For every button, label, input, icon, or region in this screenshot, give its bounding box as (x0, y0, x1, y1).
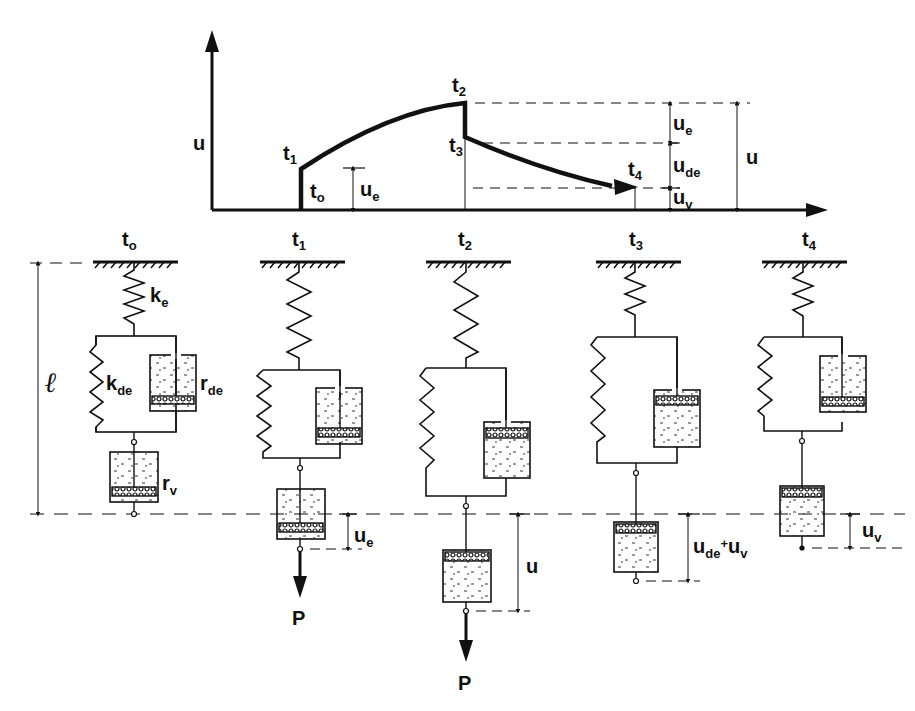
svg-text:t3: t3 (629, 228, 643, 253)
svg-text:uv: uv (862, 519, 882, 545)
svg-text:rv: rv (162, 472, 178, 498)
t3-graph-label: t3 (449, 134, 463, 159)
spring-ke (124, 262, 144, 336)
y-axis-arrow-icon (205, 30, 219, 52)
force-arrow-icon (293, 576, 307, 598)
ue-label: ue (360, 178, 379, 204)
u-total-label: u (746, 146, 758, 168)
length-label: ℓ (44, 367, 57, 398)
model-t2: t2 P u (420, 228, 538, 694)
x-axis-arrow-icon (806, 203, 828, 217)
model-t4: t4 uv (758, 228, 905, 551)
ude-right-label: ude (673, 154, 700, 180)
force-arrow-icon (459, 640, 473, 662)
svg-text:t2: t2 (458, 228, 472, 253)
model-t0: to ke kde rde rv (90, 228, 223, 517)
svg-text:ude+uv: ude+uv (693, 535, 748, 561)
svg-text:rde: rde (200, 372, 223, 398)
displacement-time-graph: u ue t1 to t2 t3 t4 ue ude uv u (193, 30, 828, 217)
model-t1: t1 P ue (257, 228, 373, 629)
svg-text:ke: ke (150, 284, 168, 310)
svg-text:ue: ue (354, 524, 373, 550)
ue-right-label: ue (673, 112, 692, 138)
svg-text:t4: t4 (802, 228, 817, 253)
model-t3: t3 ude+uv (591, 228, 748, 584)
t1-graph-label: t1 (283, 142, 297, 167)
svg-text:to: to (122, 228, 137, 253)
svg-text:t1: t1 (292, 228, 306, 253)
t0-graph-label: to (310, 180, 325, 205)
rheological-model-diagram: u ue t1 to t2 t3 t4 ue ude uv u (0, 0, 915, 711)
force-label: P (292, 607, 305, 629)
uv-right-label: uv (673, 186, 693, 212)
svg-text:u: u (526, 555, 538, 577)
t2-graph-label: t2 (452, 74, 466, 99)
t4-graph-label: t4 (628, 158, 643, 183)
y-axis-label: u (193, 132, 205, 154)
force-label: P (458, 672, 471, 694)
svg-text:kde: kde (106, 372, 132, 398)
